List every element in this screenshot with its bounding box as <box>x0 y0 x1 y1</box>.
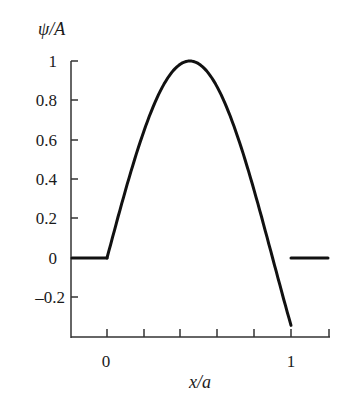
y-axis <box>71 61 78 338</box>
y-tick-label: 0 <box>49 249 58 268</box>
y-tick-label: 1 <box>49 52 58 71</box>
x-tick-label: 1 <box>287 352 296 371</box>
x-axis <box>71 329 330 337</box>
y-tick-label: 0.2 <box>36 209 57 228</box>
wavefunction-chart: 1 0.8 0.6 0.4 0.2 0 –0.2 0 1 ψ/A x/a <box>0 0 348 403</box>
x-axis-title: x/a <box>188 372 211 392</box>
y-tick-label: –0.2 <box>34 288 65 307</box>
y-tick-label: 0.4 <box>36 170 58 189</box>
y-axis-title: ψ/A <box>38 19 66 39</box>
x-tick-label: 0 <box>102 352 111 371</box>
y-tick-label: 0.6 <box>36 131 57 150</box>
y-tick-label: 0.8 <box>36 91 57 110</box>
wavefunction-curve <box>72 61 328 325</box>
